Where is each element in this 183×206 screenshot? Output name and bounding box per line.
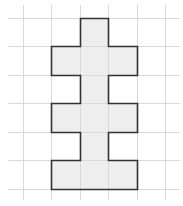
shape-cell — [81, 19, 109, 47]
shape-cell — [109, 47, 138, 76]
shape-cell — [52, 161, 81, 190]
shape-cell — [81, 104, 109, 133]
shape-cell — [52, 104, 81, 133]
shape-cell — [81, 47, 109, 76]
shape-cell — [109, 104, 138, 133]
shape-cell — [81, 161, 109, 190]
shape-cell — [52, 47, 81, 76]
shape-cell — [81, 76, 109, 104]
grid-diagram — [0, 0, 183, 206]
shape-cell — [81, 133, 109, 161]
shape-cell — [109, 161, 138, 190]
